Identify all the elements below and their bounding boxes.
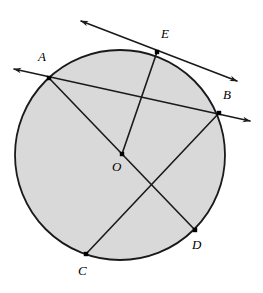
point-label-a: A — [38, 50, 46, 63]
geometry-canvas — [0, 0, 263, 293]
point-label-o: O — [112, 160, 121, 173]
point-label-c: C — [78, 264, 87, 277]
point-marker-c — [84, 252, 88, 256]
point-label-d: D — [192, 238, 201, 251]
point-label-b: B — [223, 88, 231, 101]
point-marker-o — [120, 152, 124, 156]
point-marker-e — [155, 50, 159, 54]
point-label-e: E — [161, 27, 169, 40]
circle-geometry-diagram: ABCDEO — [0, 0, 263, 293]
point-marker-b — [217, 111, 221, 115]
point-marker-a — [47, 76, 51, 80]
point-marker-d — [193, 228, 197, 232]
